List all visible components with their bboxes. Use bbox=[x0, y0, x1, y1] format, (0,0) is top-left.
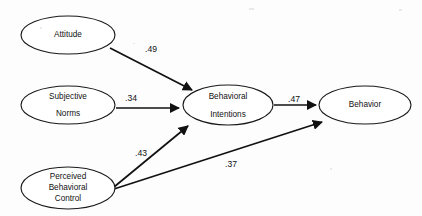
subjective-norms-label-line-1: Subjective bbox=[49, 92, 87, 101]
behavioral-intentions-label-line-1: Behavioral bbox=[209, 92, 248, 101]
path-intentions-to-behavior: .47 bbox=[274, 94, 316, 105]
scan-speck bbox=[249, 8, 254, 10]
scan-speck bbox=[40, 27, 42, 29]
node-behavioral-intentions[interactable]: Behavioral Intentions bbox=[183, 85, 273, 125]
path-coefficient-43: .43 bbox=[135, 148, 147, 158]
path-diagram: .49 .34 .43 .47 .37 Attitude Subjective … bbox=[0, 0, 422, 216]
node-subjective-norms[interactable]: Subjective Norms bbox=[21, 86, 115, 124]
diagram-canvas: .49 .34 .43 .47 .37 Attitude Subjective … bbox=[0, 0, 422, 216]
scan-speck bbox=[330, 168, 332, 170]
path-coefficient-37: .37 bbox=[225, 159, 237, 169]
path-attitude-to-intentions: .49 bbox=[110, 44, 192, 90]
behavior-label: Behavior bbox=[349, 100, 382, 109]
path-coefficient-47: .47 bbox=[288, 94, 300, 104]
path-norms-to-intentions: .34 bbox=[116, 93, 179, 108]
scan-speck bbox=[399, 9, 402, 11]
path-coefficient-34: .34 bbox=[125, 93, 137, 103]
node-attitude[interactable]: Attitude bbox=[21, 16, 115, 54]
behavioral-intentions-label-line-2: Intentions bbox=[210, 110, 246, 119]
arrow-attitude-to-intentions bbox=[110, 48, 192, 90]
scan-speck bbox=[133, 43, 135, 44]
attitude-label: Attitude bbox=[54, 30, 82, 39]
perceived-behavioral-control-label-line-2: Behavioral bbox=[49, 183, 88, 192]
node-perceived-behavioral-control[interactable]: Perceived Behavioral Control bbox=[21, 167, 115, 209]
subjective-norms-label-line-2: Norms bbox=[56, 109, 80, 118]
perceived-behavioral-control-label-line-1: Perceived bbox=[50, 172, 87, 181]
perceived-behavioral-control-label-line-3: Control bbox=[55, 194, 82, 203]
path-coefficient-49: .49 bbox=[145, 44, 157, 54]
node-behavior[interactable]: Behavior bbox=[319, 86, 411, 124]
